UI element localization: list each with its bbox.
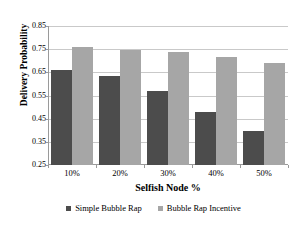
legend-label: Bubble Rap Incentive bbox=[167, 203, 241, 213]
bar-simple-bubble-rap bbox=[195, 112, 216, 165]
bar-bubble-rap-incentive bbox=[216, 57, 237, 165]
x-tick-mark bbox=[240, 165, 241, 168]
bar-simple-bubble-rap bbox=[243, 131, 264, 165]
y-tick-label: 0.75 bbox=[18, 45, 46, 53]
y-tick-label: 0.35 bbox=[18, 138, 46, 146]
chart-figure: Delivery Probability 0.250.350.450.550.6… bbox=[0, 0, 307, 225]
y-tick-label: 0.65 bbox=[18, 68, 46, 76]
bar-group bbox=[147, 26, 189, 165]
bar-bubble-rap-incentive bbox=[72, 47, 93, 165]
y-tick-label: 0.45 bbox=[18, 115, 46, 123]
y-tick-label: 0.55 bbox=[18, 92, 46, 100]
bar-group bbox=[243, 26, 285, 165]
y-tick-label: 0.85 bbox=[18, 22, 46, 30]
bar-group bbox=[99, 26, 141, 165]
legend-swatch-icon bbox=[158, 206, 163, 211]
x-tick-mark bbox=[48, 165, 49, 168]
legend-item: Simple Bubble Rap bbox=[66, 203, 142, 213]
bar-simple-bubble-rap bbox=[147, 91, 168, 165]
x-axis-title: Selfish Node % bbox=[48, 182, 288, 193]
x-tick-mark bbox=[96, 165, 97, 168]
legend-label: Simple Bubble Rap bbox=[75, 203, 142, 213]
bar-series-layer bbox=[48, 26, 288, 165]
x-tick-mark bbox=[288, 165, 289, 168]
x-tick-mark bbox=[144, 165, 145, 168]
chart-legend: Simple Bubble RapBubble Rap Incentive bbox=[0, 203, 307, 213]
bar-simple-bubble-rap bbox=[51, 70, 72, 165]
legend-swatch-icon bbox=[66, 206, 71, 211]
bar-simple-bubble-rap bbox=[99, 76, 120, 165]
legend-item: Bubble Rap Incentive bbox=[158, 203, 241, 213]
x-tick-label: 50% bbox=[234, 168, 294, 178]
bar-bubble-rap-incentive bbox=[168, 52, 189, 165]
bar-group bbox=[195, 26, 237, 165]
bar-bubble-rap-incentive bbox=[264, 63, 285, 165]
bar-group bbox=[51, 26, 93, 165]
bar-bubble-rap-incentive bbox=[120, 50, 141, 165]
x-tick-mark bbox=[192, 165, 193, 168]
